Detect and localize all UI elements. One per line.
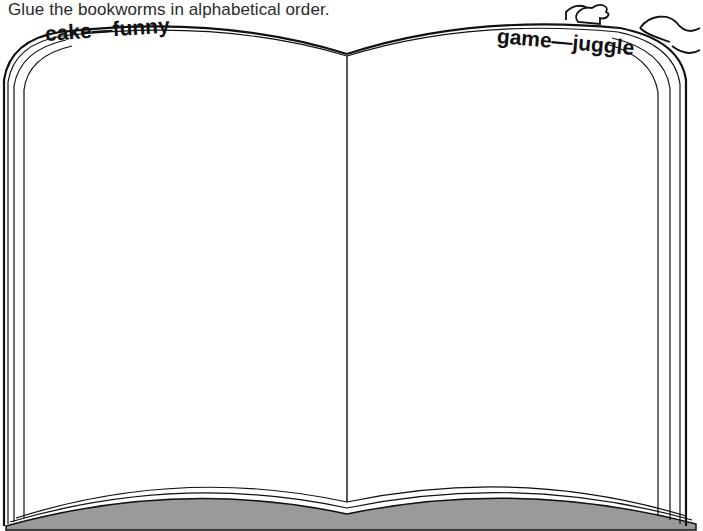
left-page-glue-area [30,70,340,460]
right-page-glue-area [355,70,660,460]
